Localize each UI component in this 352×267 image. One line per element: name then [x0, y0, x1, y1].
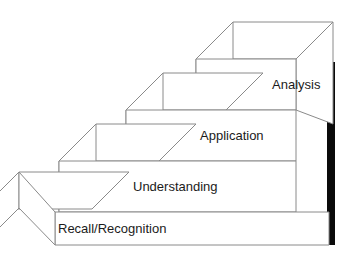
step-recall-recognition-label: Recall/Recognition — [58, 221, 166, 236]
staircase-diagram: Analysis Application Understanding Recal… — [0, 0, 352, 267]
step-understanding-label: Understanding — [133, 179, 218, 194]
step-analysis-label: Analysis — [272, 77, 321, 92]
diagram-canvas: Analysis Application Understanding Recal… — [0, 0, 352, 267]
step-application-label: Application — [200, 128, 264, 143]
step-recall-left-face — [0, 172, 19, 245]
